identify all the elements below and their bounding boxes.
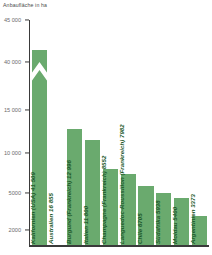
bar[interactable]: Burgund (Frankreich) 12 996 <box>67 129 82 246</box>
bar[interactable]: Argentinien 3373 <box>192 216 207 246</box>
y-tick-label: 5000 <box>9 190 21 196</box>
bar[interactable]: Champagne (Frankreich) 8552 <box>103 169 118 246</box>
y-tick-label: 15 000 <box>4 107 21 113</box>
y-tick-label: 2000 <box>9 227 21 233</box>
bar[interactable]: Moldau 5400 <box>174 198 189 247</box>
y-tick-label: 40 000 <box>4 59 21 65</box>
bar[interactable]: Italien 11 800 <box>85 140 100 247</box>
bar-label: Burgund (Frankreich) 12 996 <box>65 160 72 244</box>
bar[interactable]: Languedoc-Roussillon (Frankreich) 7982 <box>121 174 136 246</box>
bar[interactable]: Kalifornien (USA) 41 509 <box>32 50 47 246</box>
bar-chart: Anbaufläche in ha 45 00040 00015 00010 0… <box>0 0 212 255</box>
bar-label: Italien 11 800 <box>82 205 89 243</box>
bar-label: Champagne (Frankreich) 8552 <box>100 155 107 243</box>
bar-label: Chile 6705 <box>136 213 143 244</box>
bar-label: Kalifornien (USA) 41 509 <box>29 172 36 244</box>
y-axis: 45 00040 00015 00010 00050002000 <box>0 0 29 255</box>
bar[interactable]: Chile 6705 <box>138 186 153 247</box>
bar[interactable]: Südafrika 5938 <box>156 193 171 247</box>
x-axis-baseline <box>29 245 209 247</box>
y-tick-label: 10 000 <box>4 150 21 156</box>
bar-label: Argentinien 3373 <box>189 194 196 244</box>
y-tick-label: 45 000 <box>4 17 21 23</box>
bar-label: Australien 16 855 <box>47 193 54 244</box>
bar-label: Languedoc-Roussillon (Frankreich) 7982 <box>118 124 125 244</box>
plot-area: Kalifornien (USA) 41 509Australien 16 85… <box>30 20 208 246</box>
bar-label: Moldau 5400 <box>171 206 178 243</box>
bar-label: Südafrika 5938 <box>154 200 161 244</box>
